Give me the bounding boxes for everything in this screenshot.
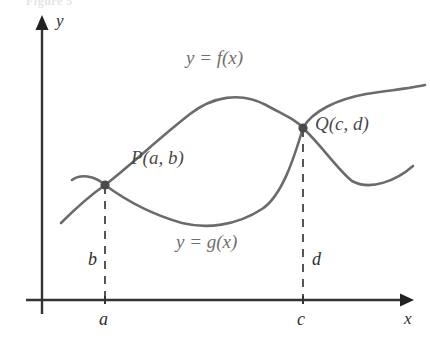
- curve-g: [72, 85, 425, 226]
- x-axis-arrowhead: [400, 294, 414, 307]
- y-axis-arrowhead: [36, 15, 49, 30]
- curve-g-path: [72, 85, 425, 226]
- curve-f: [61, 97, 413, 223]
- figure-canvas: Figure 5: [0, 0, 430, 352]
- figure-graphic: [0, 0, 430, 352]
- point-p-dot: [100, 180, 109, 189]
- dashed-guides: [105, 129, 303, 300]
- axis-group: [26, 15, 414, 314]
- intersection-points: [100, 123, 307, 189]
- curve-f-path: [61, 97, 413, 223]
- point-q-dot: [298, 123, 307, 132]
